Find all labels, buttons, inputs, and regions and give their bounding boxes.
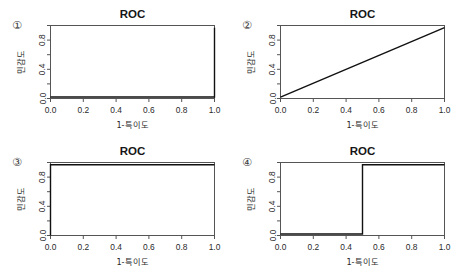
y-axis-tick-label: 0.0: [268, 229, 278, 241]
y-axis-tick-label: 0.8: [38, 34, 48, 46]
x-axis-tick-label: 0.2: [77, 242, 89, 252]
x-axis-tick-label: 0.4: [110, 242, 122, 252]
x-axis-tick-label: 0.4: [340, 242, 352, 252]
y-axis-tick-label: 0.8: [268, 34, 278, 46]
roc-plot-canvas: ④ROC0.00.20.40.60.81.00.00.40.81-특이도민감도: [230, 137, 459, 273]
x-axis-tick-label: 0.2: [307, 105, 319, 115]
x-axis-tick-label: 0.2: [307, 242, 319, 252]
roc-curve: [281, 28, 445, 97]
roc-panel-3: ③ROC0.00.20.40.60.81.00.00.40.81-특이도민감도: [0, 137, 229, 273]
x-axis-tick-label: 0.8: [176, 242, 188, 252]
x-axis-title: 1-특이도: [346, 120, 378, 130]
x-axis-tick-label: 1.0: [209, 105, 221, 115]
roc-curve: [281, 165, 445, 234]
roc-panel-4: ④ROC0.00.20.40.60.81.00.00.40.81-특이도민감도: [230, 137, 459, 273]
y-axis-tick-label: 0.4: [268, 63, 278, 75]
x-axis-tick-label: 0.8: [406, 105, 418, 115]
x-axis-tick-label: 0.2: [77, 105, 89, 115]
x-axis-tick-label: 1.0: [439, 105, 451, 115]
y-axis-tick-label: 0.4: [268, 200, 278, 212]
x-axis-tick-label: 0.0: [45, 242, 57, 252]
plot-frame: [51, 26, 215, 99]
y-axis-tick-label: 0.8: [38, 171, 48, 183]
x-axis-tick-label: 0.8: [406, 242, 418, 252]
x-axis-title: 1-특이도: [346, 257, 378, 267]
plot-title: ROC: [350, 8, 376, 20]
roc-plot-canvas: ①ROC0.00.20.40.60.81.00.00.40.81-특이도민감도: [0, 0, 229, 136]
roc-curve: [51, 165, 215, 236]
roc-figure: ①ROC0.00.20.40.60.81.00.00.40.81-특이도민감도②…: [0, 0, 459, 273]
x-axis-tick-label: 0.0: [275, 105, 287, 115]
panel-marker: ②: [242, 19, 252, 32]
x-axis-tick-label: 0.0: [45, 105, 57, 115]
plot-title: ROC: [120, 145, 146, 157]
y-axis-title: 민감도: [246, 50, 256, 74]
panel-marker: ④: [242, 156, 252, 169]
plot-frame: [51, 163, 215, 236]
panel-marker: ③: [12, 156, 22, 169]
roc-panel-1: ①ROC0.00.20.40.60.81.00.00.40.81-특이도민감도: [0, 0, 229, 136]
roc-curve: [51, 28, 215, 97]
roc-panel-2: ②ROC0.00.20.40.60.81.00.00.40.81-특이도민감도: [230, 0, 459, 136]
x-axis-title: 1-특이도: [116, 120, 148, 130]
x-axis-tick-label: 0.8: [176, 105, 188, 115]
y-axis-tick-label: 0.0: [38, 229, 48, 241]
x-axis-tick-label: 0.4: [340, 105, 352, 115]
x-axis-tick-label: 0.6: [143, 242, 155, 252]
y-axis-tick-label: 0.0: [38, 92, 48, 104]
roc-plot-canvas: ③ROC0.00.20.40.60.81.00.00.40.81-특이도민감도: [0, 137, 229, 273]
y-axis-tick-label: 0.4: [38, 200, 48, 212]
x-axis-tick-label: 0.0: [275, 242, 287, 252]
panel-marker: ①: [12, 19, 22, 32]
x-axis-title: 1-특이도: [116, 257, 148, 267]
x-axis-tick-label: 0.6: [373, 242, 385, 252]
roc-plot-canvas: ②ROC0.00.20.40.60.81.00.00.40.81-특이도민감도: [230, 0, 459, 136]
x-axis-tick-label: 1.0: [209, 242, 221, 252]
y-axis-title: 민감도: [16, 50, 26, 74]
x-axis-tick-label: 0.4: [110, 105, 122, 115]
x-axis-tick-label: 0.6: [143, 105, 155, 115]
plot-title: ROC: [120, 8, 146, 20]
x-axis-tick-label: 1.0: [439, 242, 451, 252]
x-axis-tick-label: 0.6: [373, 105, 385, 115]
y-axis-title: 민감도: [16, 187, 26, 211]
y-axis-title: 민감도: [246, 187, 256, 211]
y-axis-tick-label: 0.4: [38, 63, 48, 75]
plot-title: ROC: [350, 145, 376, 157]
y-axis-tick-label: 0.8: [268, 171, 278, 183]
y-axis-tick-label: 0.0: [268, 92, 278, 104]
